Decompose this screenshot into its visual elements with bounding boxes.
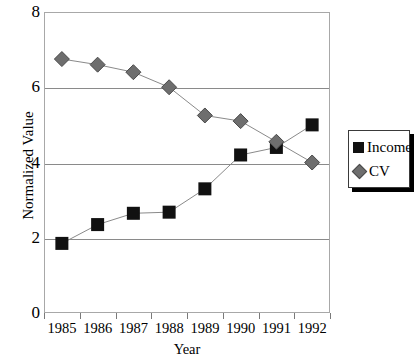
data-point-marker <box>91 218 104 231</box>
x-tick-label: 1992 <box>290 320 334 337</box>
x-tick-mark <box>116 313 117 319</box>
data-point-marker <box>234 148 247 161</box>
data-series-layer <box>44 12 330 313</box>
data-point-marker <box>233 114 248 129</box>
legend-item-cv[interactable]: CV <box>353 160 390 182</box>
y-tick-label: 6 <box>18 78 40 95</box>
legend-label: CV <box>369 164 390 179</box>
legend-item-income[interactable]: Income <box>353 136 412 158</box>
data-point-marker <box>306 118 319 131</box>
x-tick-mark <box>44 313 45 319</box>
x-tick-mark <box>151 313 152 319</box>
data-point-marker <box>305 155 320 170</box>
chart-legend: IncomeCV <box>348 130 410 188</box>
data-point-marker <box>127 207 140 220</box>
x-tick-mark <box>80 313 81 319</box>
x-tick-mark <box>330 313 331 319</box>
legend-square-icon <box>353 142 364 153</box>
y-tick-label: 4 <box>18 154 40 171</box>
x-tick-mark <box>223 313 224 319</box>
data-point-marker <box>90 57 105 72</box>
x-tick-mark <box>187 313 188 319</box>
data-point-marker <box>54 52 69 67</box>
chart-figure: Normalized Value 02468 19851986198719881… <box>0 0 420 363</box>
x-axis-title: Year <box>44 341 330 358</box>
data-point-marker <box>162 80 177 95</box>
x-tick-mark <box>294 313 295 319</box>
data-point-marker <box>126 65 141 80</box>
legend-diamond-icon <box>352 163 368 179</box>
data-point-marker <box>197 108 212 123</box>
y-tick-label: 0 <box>18 304 40 321</box>
y-tick-label: 8 <box>18 3 40 20</box>
x-tick-mark <box>259 313 260 319</box>
data-point-marker <box>198 182 211 195</box>
data-point-marker <box>55 237 68 250</box>
y-axis-tick-labels: 02468 <box>16 0 40 363</box>
y-tick-label: 2 <box>18 229 40 246</box>
legend-label: Income <box>367 140 412 155</box>
data-point-marker <box>163 206 176 219</box>
